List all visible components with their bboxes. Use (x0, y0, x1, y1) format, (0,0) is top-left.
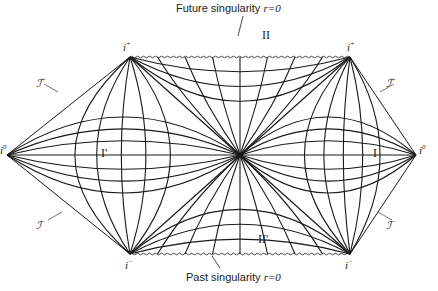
future-singularity-label: Future singularity r=0 (176, 2, 281, 14)
i-plus-left-label: i+ (123, 40, 131, 53)
scri-plus-left-label: ℐ+ (36, 76, 46, 90)
constant-t-curve (240, 155, 416, 181)
scri-minus-right-label: ℐ− (386, 218, 396, 232)
constant-t-curve (240, 155, 416, 193)
scri-plus-right-label: ℐ+ (386, 76, 396, 90)
region-II-label: II (262, 28, 270, 43)
scri-minus-left-label: ℐ− (36, 218, 46, 232)
past-singularity-label: Past singularity r=0 (186, 271, 281, 283)
i-minus-right-label: i− (345, 258, 353, 271)
future-singularity-leader (238, 16, 243, 36)
i-zero-right-label: i0 (419, 143, 426, 156)
region-II-prime-label: II' (258, 232, 268, 247)
constant-t-curve (240, 129, 416, 155)
scri-leader (44, 84, 58, 92)
constant-t-curve (240, 117, 416, 155)
past-singularity-leader (212, 256, 220, 268)
constant-t-curve (240, 141, 416, 155)
constant-t-curve (7, 155, 240, 181)
scri-leader (48, 212, 62, 220)
constant-t-curve (7, 117, 240, 155)
i-minus-left-label: i− (125, 258, 133, 271)
penrose-diagram: Future singularity r=0 Past singularity … (0, 0, 438, 291)
region-I-prime-label: I' (101, 146, 107, 161)
scri-plus-left (7, 57, 130, 155)
region-I-label: I (373, 146, 377, 161)
constant-t-curve (7, 155, 240, 169)
constant-t-curve (240, 155, 416, 169)
constant-t-curve (7, 129, 240, 155)
i-zero-left-label: i0 (0, 143, 7, 156)
i-plus-right-label: i+ (347, 40, 355, 53)
constant-t-curve (7, 141, 240, 155)
scri-minus-left (7, 155, 130, 254)
